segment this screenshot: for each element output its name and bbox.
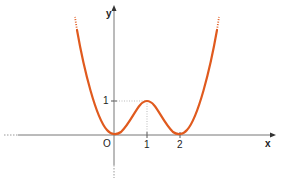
origin-label: O [103,138,111,149]
tick-label-y1: 1 [103,95,109,106]
y-axis-label: y [106,8,112,19]
function-graph [0,0,289,187]
y-axis-arrow-icon [112,5,117,11]
function-curve [77,30,217,134]
x-axis-arrow-icon [270,133,276,138]
tick-label-x1: 1 [144,139,150,150]
tick-label-x2: 2 [177,139,183,150]
x-axis-label: x [265,138,271,149]
